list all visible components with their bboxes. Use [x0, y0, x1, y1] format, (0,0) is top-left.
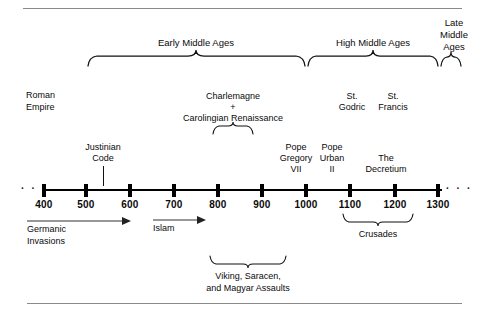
label-germanic-invasions-line1: Germanic — [27, 224, 66, 235]
axis-tick-1300 — [436, 184, 440, 197]
label-justinian-code-line1: Justinian — [85, 142, 121, 153]
label-the-decretium-line2: Decretium — [365, 164, 406, 175]
label-crusades: Crusades — [359, 229, 398, 240]
axis-year-1100: 1100 — [339, 199, 362, 210]
axis-tick-900 — [260, 184, 264, 197]
brace-late-middle-ages — [441, 52, 461, 66]
label-pope-gregory-vii-line1: Pope — [285, 142, 306, 153]
timeline-axis — [42, 189, 442, 191]
axis-tick-800 — [216, 184, 220, 197]
label-st-francis-line1: St. — [387, 91, 398, 102]
label-carolingian-renaissance: Carolingian Renaissance — [183, 113, 283, 124]
timeline-figure: Early Middle Ages High Middle Ages Late … — [0, 0, 486, 316]
axis-year-600: 600 — [121, 199, 138, 210]
label-the-decretium-line1: The — [378, 153, 394, 164]
label-st-godric-line1: St. — [346, 91, 357, 102]
axis-tick-400 — [42, 184, 46, 197]
brace-high-middle-ages — [308, 50, 438, 66]
islam-arrow-head — [197, 216, 206, 224]
label-plus-sign: + — [230, 102, 235, 113]
germanic-invasions-arrow-head — [122, 217, 131, 225]
label-roman-empire-line2: Empire — [26, 102, 55, 113]
label-viking-saracen-line2: and Magyar Assaults — [206, 283, 290, 294]
label-pope-gregory-vii-line3: VII — [290, 164, 301, 175]
axis-year-500: 500 — [77, 199, 94, 210]
axis-year-900: 900 — [253, 199, 270, 210]
axis-year-1000: 1000 — [294, 199, 317, 210]
axis-year-1200: 1200 — [383, 199, 406, 210]
label-islam: Islam — [153, 223, 175, 234]
brace-early-middle-ages — [88, 50, 305, 66]
label-st-francis-line2: Francis — [378, 102, 408, 113]
era-braces — [0, 0, 486, 316]
label-pope-gregory-vii-line2: Gregory — [280, 153, 313, 164]
label-charlemagne: Charlemagne — [206, 91, 260, 102]
axis-year-800: 800 — [209, 199, 226, 210]
axis-tick-700 — [172, 184, 176, 197]
label-viking-saracen-line1: Viking, Saracen, — [215, 271, 280, 282]
brace-crusades — [343, 214, 413, 226]
label-roman-empire-line1: Roman — [26, 90, 55, 101]
axis-tick-1000 — [304, 184, 308, 197]
label-germanic-invasions-line2: Invasions — [27, 236, 65, 247]
axis-tick-1200 — [393, 184, 397, 197]
axis-tick-1100 — [348, 184, 352, 197]
axis-right-ellipsis: · · · — [446, 183, 473, 194]
label-pope-urban-ii-line3: II — [329, 164, 334, 175]
axis-year-400: 400 — [35, 199, 52, 210]
label-pope-urban-ii-line2: Urban — [320, 153, 345, 164]
axis-tick-500 — [84, 184, 88, 197]
label-pope-urban-ii-line1: Pope — [321, 142, 342, 153]
axis-year-700: 700 — [165, 199, 182, 210]
justinian-code-leader-line — [103, 166, 104, 186]
axis-year-1300: 1300 — [426, 199, 449, 210]
brace-viking-saracen-magyar — [210, 256, 286, 268]
label-st-godric-line2: Godric — [339, 102, 366, 113]
axis-tick-600 — [128, 184, 132, 197]
label-justinian-code-line2: Code — [92, 153, 114, 164]
